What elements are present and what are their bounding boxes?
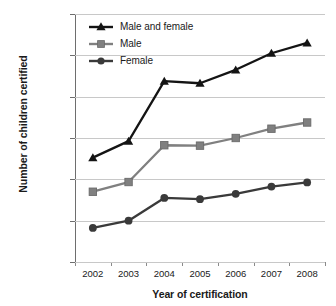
x-axis-tick-label: 2008 — [285, 268, 329, 279]
data-point-square — [89, 188, 96, 195]
data-point-circle — [196, 195, 204, 203]
legend-label: Male — [120, 38, 141, 49]
x-axis-tick — [325, 262, 326, 266]
data-point-circle — [125, 217, 133, 225]
data-point-square — [268, 125, 275, 132]
legend-item-female[interactable]: Female — [88, 52, 193, 69]
gridline — [75, 262, 325, 263]
triangle-marker-icon — [88, 20, 114, 34]
square-marker-icon — [88, 37, 114, 51]
data-point-square — [161, 142, 168, 149]
legend: Male and female Male Female — [88, 18, 193, 69]
data-point-square — [196, 142, 203, 149]
data-point-circle — [303, 179, 311, 187]
legend-label: Male and female — [120, 21, 193, 32]
data-point-square — [303, 119, 310, 126]
series-male — [89, 119, 311, 196]
circle-marker-icon — [88, 54, 114, 68]
data-point-circle — [160, 194, 168, 202]
legend-item-male[interactable]: Male — [88, 35, 193, 52]
data-point-circle — [89, 224, 97, 232]
line-chart: Number of children certified Year of cer… — [0, 0, 336, 306]
legend-item-male-and-female[interactable]: Male and female — [88, 18, 193, 35]
legend-label: Female — [120, 55, 153, 66]
series-female — [89, 179, 311, 232]
y-axis-title: Number of children certified — [17, 24, 29, 224]
data-point-circle — [268, 183, 276, 191]
data-point-square — [125, 178, 132, 185]
data-point-square — [232, 134, 239, 141]
x-axis-title: Year of certification — [75, 288, 325, 300]
data-point-triangle — [303, 39, 312, 47]
data-point-circle — [232, 190, 240, 198]
